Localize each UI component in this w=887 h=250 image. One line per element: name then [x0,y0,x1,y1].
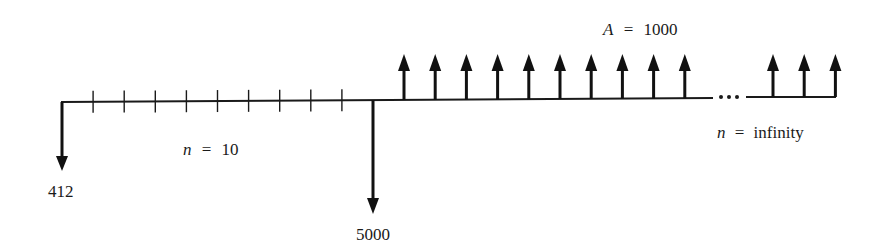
annuity-arrow [429,54,441,100]
label-n-10: n = 10 [183,140,239,159]
equals-sign: = [735,123,745,142]
annuity-arrow [492,54,504,99]
equals-sign: = [202,140,212,159]
a-value: 1000 [643,20,677,39]
annuity-arrow [679,54,691,98]
n-var: n [717,123,726,142]
label-a-1000: A = 1000 [602,20,677,39]
time-axis-left [61,98,713,102]
payment-arrow-412 [56,102,68,171]
payment-arrow-5000 [367,100,379,214]
label-412: 412 [48,182,74,201]
a-var: A [602,20,614,39]
n-value: 10 [222,140,239,159]
annuity-arrow [829,54,841,97]
n-value: infinity [754,123,805,142]
n-var: n [183,140,192,159]
label-n-infinity: n = infinity [717,123,804,142]
equals-sign: = [624,20,634,39]
annuity-arrow [585,54,597,99]
annuity-arrow [767,54,779,97]
annuity-arrow [523,54,535,99]
annuity-arrow [460,54,472,100]
cash-flow-diagram: 412 5000 n = 10 A = 1000 n = infinity [0,0,887,250]
annuity-arrow [616,54,628,99]
annuity-arrow [554,54,566,99]
annuity-arrow [648,54,660,98]
ellipsis [719,95,739,99]
annuity-arrow [798,54,810,97]
annuity-arrow [398,54,410,100]
annuity-arrows [398,54,841,100]
label-5000: 5000 [356,225,390,244]
